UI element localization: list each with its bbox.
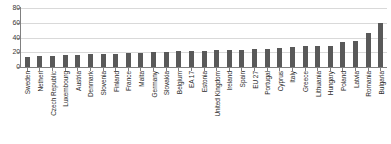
x-tick-label: Bulgaria [377, 71, 384, 94]
bar [366, 33, 371, 67]
bar-slot [274, 8, 287, 67]
x-tick-label: EU 27 [251, 71, 258, 89]
bar-slot [362, 8, 375, 67]
bar [277, 48, 282, 67]
bar [75, 55, 80, 67]
bar-slot [122, 8, 135, 67]
x-label-slot: Luxembourg [59, 71, 72, 143]
x-label-slot: Bulgaria [375, 71, 388, 143]
bar-slot [198, 8, 211, 67]
x-label-slot: Germany [147, 71, 160, 143]
x-tick-label: Estonia [201, 71, 208, 92]
x-label-slot: United Kingdom [210, 71, 223, 143]
x-label-slot: Austria [72, 71, 85, 143]
bar [303, 46, 308, 67]
x-tick-label: Denmark [87, 71, 94, 97]
bar-slot [311, 8, 324, 67]
bar [138, 53, 143, 67]
bar [265, 49, 270, 67]
bar-slot [223, 8, 236, 67]
x-tick-label: Sweden [24, 71, 31, 94]
bar-slot [248, 8, 261, 67]
x-tick-label: Austria [74, 71, 81, 91]
x-tick-label: Lithuania [314, 71, 321, 97]
x-label-slot: Finland [109, 71, 122, 143]
bar [378, 23, 383, 67]
bar-slot [97, 8, 110, 67]
x-label-slot: Slovenia [97, 71, 110, 143]
x-tick-label: United Kingdom [213, 71, 220, 117]
x-label-slot: Czech Republic [46, 71, 59, 143]
bar-slot [135, 8, 148, 67]
bar-slot [109, 8, 122, 67]
x-label-slot: Cyprus [274, 71, 287, 143]
bar-series [21, 8, 387, 67]
x-tick-label: Portugal [264, 71, 271, 95]
x-label-slot: Latvia [349, 71, 362, 143]
bar [315, 46, 320, 67]
bar [101, 54, 106, 67]
x-label-slot: Estonia [198, 71, 211, 143]
bar [63, 55, 68, 67]
bar [50, 56, 55, 67]
bar-slot [210, 8, 223, 67]
bar [340, 42, 345, 67]
x-tick-label: Romania [365, 71, 372, 97]
x-label-slot: Poland [337, 71, 350, 143]
x-tick-label: Latvia [352, 71, 359, 88]
x-tick-label: Belgium [175, 71, 182, 94]
x-label-slot: Greece [299, 71, 312, 143]
x-label-slot: Denmark [84, 71, 97, 143]
bar-slot [72, 8, 85, 67]
x-label-slot: Sweden [21, 71, 34, 143]
x-tick-label: Hungary [327, 71, 334, 95]
bar-slot [299, 8, 312, 67]
bar [227, 50, 232, 67]
bar [239, 50, 244, 67]
x-tick-label: Slovakia [163, 71, 170, 95]
x-label-slot: EU 27 [248, 71, 261, 143]
x-axis-labels: SwedenNetherlCzech RepublicLuxembourgAus… [21, 71, 387, 143]
x-label-slot: Hungary [324, 71, 337, 143]
x-tick-label: Spain [238, 71, 245, 87]
bar [113, 54, 118, 67]
bar-chart: 020406080 SwedenNetherlCzech RepublicLux… [0, 0, 391, 144]
bar-slot [84, 8, 97, 67]
x-tick-label: Cyprus [276, 71, 283, 91]
bar-slot [236, 8, 249, 67]
x-label-slot: Italy [286, 71, 299, 143]
x-tick-label: Italy [289, 71, 296, 83]
x-label-slot: Romania [362, 71, 375, 143]
bar-slot [46, 8, 59, 67]
bar [37, 56, 42, 67]
x-label-slot: Belgium [173, 71, 186, 143]
x-label-slot: EA 17 [185, 71, 198, 143]
x-tick-label: Finland [112, 71, 119, 92]
x-label-slot: Malta [135, 71, 148, 143]
bar-slot [337, 8, 350, 67]
bar-slot [349, 8, 362, 67]
bar-slot [34, 8, 47, 67]
x-tick-label: Luxembourg [62, 71, 69, 107]
x-tick-label: Poland [339, 71, 346, 91]
x-tick-label: Germany [150, 71, 157, 97]
x-tick-label: Greece [302, 71, 309, 92]
bar [151, 52, 156, 67]
x-label-slot: Lithuania [311, 71, 324, 143]
bar [189, 51, 194, 67]
bar-slot [261, 8, 274, 67]
bar [164, 52, 169, 67]
x-label-slot: Ireland [223, 71, 236, 143]
bar-slot [21, 8, 34, 67]
x-tick-label: Czech Republic [49, 71, 56, 116]
bar-slot [185, 8, 198, 67]
bar [88, 54, 93, 67]
bar-slot [375, 8, 388, 67]
x-label-slot: France [122, 71, 135, 143]
x-tick-label: Malta [137, 71, 144, 87]
bar [290, 47, 295, 67]
bar [126, 53, 131, 67]
bar [353, 41, 358, 67]
bar [252, 49, 257, 67]
bar [328, 46, 333, 67]
